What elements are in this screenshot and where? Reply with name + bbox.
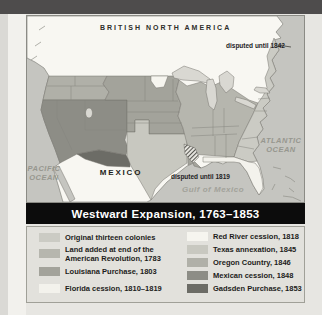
- map-title: Westward Expansion, 1763–1853: [71, 208, 259, 220]
- legend-label-oregon-country: Oregon Country, 1846: [213, 259, 303, 268]
- legend-swatch-red-river: [187, 232, 208, 241]
- legend-swatch-texas-annexation: [187, 245, 208, 254]
- legend-label-land-1783: Land added at end of the American Revolu…: [65, 246, 165, 263]
- legend-label-louisiana-purchase: Louisiana Purchase, 1803: [65, 268, 185, 277]
- label-atlantic-ocean: ATLANTIC OCEAN: [260, 136, 302, 154]
- legend-swatch-land-1783: [39, 249, 60, 258]
- top-banner: [0, 0, 322, 14]
- label-mexico: MEXICO: [96, 168, 146, 177]
- region-oregon-country: [43, 76, 109, 100]
- legend: Original thirteen colonies Land added at…: [26, 226, 305, 303]
- label-gulf-of-mexico: Gulf of Mexico: [182, 185, 244, 194]
- legend-label-mexican-cession: Mexican cession, 1848: [213, 272, 303, 281]
- legend-swatch-louisiana-purchase: [39, 267, 60, 276]
- legend-label-gadsden-purchase: Gadsden Purchase, 1853: [213, 285, 308, 294]
- label-pacific-ocean: PACIFIC OCEAN: [24, 164, 64, 182]
- page-edge-dark: [0, 14, 8, 315]
- legend-swatch-gadsden-purchase: [187, 284, 208, 293]
- legend-swatch-florida-cession: [39, 284, 60, 293]
- legend-label-original-colonies: Original thirteen colonies: [65, 234, 185, 243]
- legend-label-florida-cession: Florida cession, 1810–1819: [65, 285, 195, 294]
- label-disputed-until-1819: disputed until 1819: [171, 173, 230, 180]
- legend-swatch-mexican-cession: [187, 271, 208, 280]
- legend-label-texas-annexation: Texas annexation, 1845: [213, 246, 303, 255]
- label-british-north-america: BRITISH NORTH AMERICA: [100, 24, 230, 31]
- legend-label-red-river: Red River cession, 1818: [213, 233, 303, 242]
- legend-swatch-oregon-country: [187, 258, 208, 267]
- label-disputed-until-1842: disputed until 1842: [226, 42, 285, 49]
- map-title-bar: Westward Expansion, 1763–1853: [26, 203, 305, 224]
- legend-swatch-original-colonies: [39, 233, 60, 242]
